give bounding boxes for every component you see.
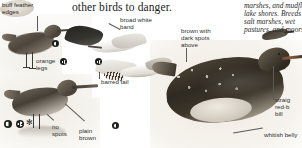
bird-foot: [29, 68, 36, 69]
bird-leg: [32, 52, 33, 69]
label-straight-red-based-bill-line3: bill: [275, 110, 283, 117]
label-brown-dark-spots-line1: brown with: [181, 27, 211, 34]
flight-plumage-symbol: [52, 40, 59, 47]
juvenile-plumage-symbol: [4, 120, 12, 128]
label-plain-brown-line2: brown: [79, 134, 96, 141]
flight-underside-symbol: [60, 58, 67, 65]
bird-leg: [33, 114, 34, 128]
leader-line-straight-red-based-bill: [273, 66, 274, 100]
label-barred-tail: barred tail: [101, 78, 129, 85]
label-buff-feather-edges-line1: buff feather: [2, 1, 33, 8]
bird-leg: [26, 52, 27, 68]
label-brown-dark-spots-line2: dark spots: [181, 34, 210, 41]
label-plain-brown-line1: plain: [79, 127, 92, 134]
leader-line-barred-tail: [99, 72, 100, 79]
flight-barred-tail-symbol: [95, 58, 102, 65]
leader-line-buff-feather-edges: [37, 16, 38, 31]
label-whitish-belly: whitish belly: [264, 131, 297, 138]
field-guide-plate-page: ✻ other birds to danger. marshes, and mu…: [0, 0, 302, 148]
label-orange-legs-line2: legs: [36, 64, 47, 71]
species-description-line-4: pastures, and moors: [244, 26, 302, 34]
label-buff-feather-edges-line2: edges: [2, 8, 19, 15]
label-no-spots-line2: spots: [52, 130, 67, 137]
adult-plumage-symbol: [16, 120, 24, 128]
label-no-spots-line1: no: [52, 123, 59, 130]
seasonal-symbol: ✻: [26, 119, 33, 127]
label-straight-red-based-bill-line1: straig: [275, 96, 290, 103]
page-heading: other birds to danger.: [72, 1, 172, 13]
bird-leg: [39, 114, 40, 129]
leader-line-brown-dark-spots: [186, 48, 187, 62]
adult-standing-symbol: [112, 122, 119, 129]
label-orange-legs-line1: orange: [36, 57, 55, 64]
label-brown-dark-spots-line3: above: [181, 41, 198, 48]
label-straight-red-based-bill-line2: red-b: [275, 103, 289, 110]
label-broad-white-band-line1: broad white: [120, 16, 152, 23]
label-broad-white-band-line2: band: [120, 23, 134, 30]
